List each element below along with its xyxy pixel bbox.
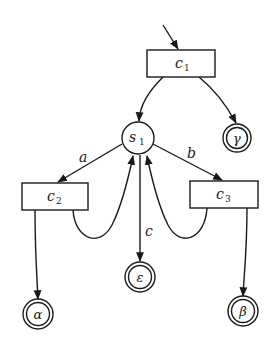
node-c1: c 1 (147, 50, 215, 77)
node-c3: c 3 (190, 181, 258, 208)
edge-label-c: c (145, 223, 153, 239)
node-gamma: γ (223, 124, 251, 152)
node-epsilon: ε (125, 262, 155, 292)
edge-c1-s1 (139, 77, 163, 121)
svg-text:1: 1 (139, 137, 145, 147)
node-epsilon-label: ε (137, 270, 144, 285)
node-c3-label: c (216, 186, 224, 202)
edge-label-b: b (187, 145, 196, 161)
node-c1-label: c (175, 55, 183, 71)
node-alpha: α (23, 299, 53, 329)
state-diagram: c 1 s 1 γ c 2 c 3 a b c α ε (0, 0, 277, 349)
node-gamma-label: γ (233, 131, 241, 146)
svg-text:2: 2 (56, 196, 62, 206)
start-arrow (163, 25, 178, 49)
node-c2: c 2 (22, 183, 88, 210)
edge-c1-gamma (199, 77, 236, 123)
edge-c3-beta (243, 208, 247, 296)
node-c2-label: c (47, 188, 55, 204)
svg-text:3: 3 (225, 194, 231, 204)
edge-label-a: a (79, 149, 87, 165)
edge-c2-alpha (35, 210, 38, 299)
node-beta: β (228, 296, 258, 326)
node-s1-label: s (129, 129, 136, 145)
svg-text:1: 1 (184, 63, 190, 73)
edge-s1-c2 (58, 144, 122, 182)
node-s1: s 1 (122, 122, 154, 154)
node-beta-label: β (238, 304, 247, 319)
node-alpha-label: α (34, 307, 43, 322)
